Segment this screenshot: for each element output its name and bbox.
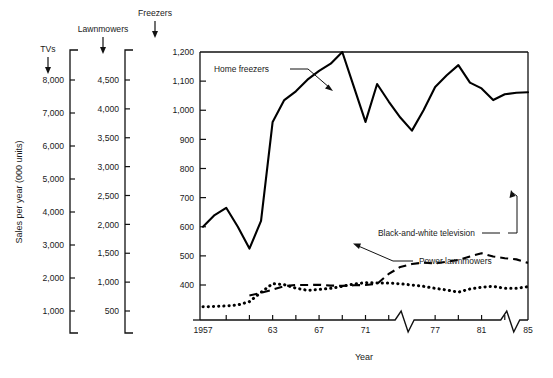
axis-tick-label-freezers: 1,100: [172, 76, 194, 86]
axis-tick-label-freezers: 700: [180, 193, 195, 203]
x-axis: 1957636771778185 Year: [193, 311, 533, 362]
axis-tick-label-lawnmowers: 3,000: [97, 162, 119, 172]
scale-lawnmowers: 4,5004,0003,5003,0002,5002,0001,5001,000…: [97, 50, 133, 333]
x-axis-tick-label: 71: [361, 325, 371, 335]
axis-tick-label-lawnmowers: 500: [105, 306, 120, 316]
figure-root: Sales per year (000 units) TVs Lawnmower…: [0, 0, 553, 378]
axis-header-freezers-label: Freezers: [138, 8, 172, 18]
axis-header-tvs-label: TVs: [40, 44, 55, 54]
scale-freezers: 1,2001,1001,000900800700600500400: [172, 47, 206, 290]
axis-tick-label-lawnmowers: 1,500: [97, 248, 119, 258]
axis-tick-label-tvs: 7,000: [42, 108, 64, 118]
axis-tick-label-freezers: 600: [180, 222, 195, 232]
down-arrow-icon: [100, 47, 106, 54]
multi-scale-line-chart: Sales per year (000 units) TVs Lawnmower…: [0, 0, 553, 378]
axis-tick-label-tvs: 4,000: [42, 207, 64, 217]
annotation-home-freezers: Home freezers: [214, 64, 333, 91]
axis-tick-label-lawnmowers: 4,500: [97, 75, 119, 85]
axis-tick-label-tvs: 1,000: [42, 306, 64, 316]
axis-tick-label-freezers: 400: [180, 280, 195, 290]
axis-tick-label-tvs: 3,000: [42, 240, 64, 250]
axis-tick-label-lawnmowers: 2,500: [97, 191, 119, 201]
series-label-power-lawnmowers: Power lawnmowers: [419, 256, 492, 266]
x-axis-tick-label: 85: [523, 325, 533, 335]
leader-arrow-icon: [353, 244, 361, 250]
axis-header-lawnmowers-label: Lawnmowers: [78, 24, 129, 34]
axis-tick-label-freezers: 1,200: [172, 47, 194, 57]
axis-tick-label-freezers: 1,000: [172, 105, 194, 115]
annotation-black-and-white-television: Black-and-white television: [378, 190, 517, 238]
axis-tick-label-lawnmowers: 1,000: [97, 277, 119, 287]
series-label-home-freezers: Home freezers: [214, 64, 269, 74]
x-axis-tick-label: 63: [268, 325, 278, 335]
x-axis-tick-label: 67: [314, 325, 324, 335]
y-axis-title: Sales per year (000 units): [14, 140, 24, 243]
series-label-black-and-white-television: Black-and-white television: [378, 228, 475, 238]
y-axis-title-text: Sales per year (000 units): [14, 140, 24, 243]
x-axis-tick-label: 1957: [193, 325, 212, 335]
scale-tvs: 8,0007,0006,0005,0004,0003,0002,0001,000: [42, 50, 78, 333]
axis-header-tvs: TVs: [40, 44, 55, 74]
axis-tick-label-tvs: 2,000: [42, 273, 64, 283]
axis-tick-label-tvs: 8,000: [42, 75, 64, 85]
x-axis-tick-label: 81: [477, 325, 487, 335]
axis-tick-label-freezers: 800: [180, 164, 195, 174]
axis-tick-label-tvs: 6,000: [42, 141, 64, 151]
axis-tick-label-lawnmowers: 2,000: [97, 220, 119, 230]
down-arrow-icon: [45, 67, 51, 74]
axis-tick-label-lawnmowers: 4,000: [97, 104, 119, 114]
axis-tick-label-freezers: 900: [180, 135, 195, 145]
plot-frame: [193, 52, 528, 320]
leader-arrow-icon: [325, 85, 333, 92]
x-axis-title-text: Year: [355, 352, 373, 362]
axis-header-freezers: Freezers: [138, 8, 172, 38]
series-layer: [203, 52, 528, 307]
down-arrow-icon: [152, 31, 158, 38]
axis-tick-label-freezers: 500: [180, 251, 195, 261]
axis-header-lawnmowers: Lawnmowers: [78, 24, 129, 54]
series-home-freezers: [203, 52, 528, 249]
axis-tick-label-lawnmowers: 3,500: [97, 133, 119, 143]
annotation-power-lawnmowers: Power lawnmowers: [353, 244, 492, 267]
axis-tick-label-tvs: 5,000: [42, 174, 64, 184]
x-axis-tick-label: 77: [430, 325, 440, 335]
